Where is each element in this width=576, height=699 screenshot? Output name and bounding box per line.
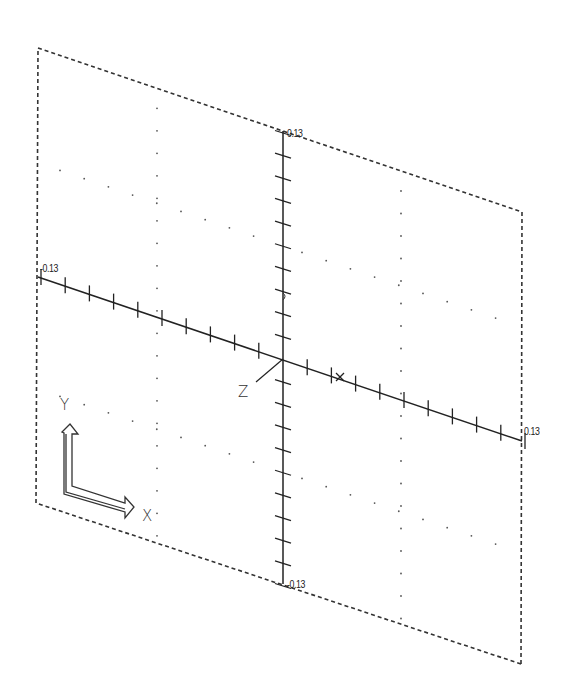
ucs-y-label: Y xyxy=(60,396,69,414)
axes xyxy=(38,131,522,584)
cad-viewport[interactable]: 0.13 -0.13 -0.13 0.13 Z Y X xyxy=(0,0,576,699)
axis-drawing xyxy=(0,0,576,699)
horizontal-axis xyxy=(38,277,522,441)
z-axis-leader xyxy=(256,359,283,382)
ucs-x-label: X xyxy=(142,507,152,525)
vertical-axis-max-label: 0.13 xyxy=(287,127,303,139)
viewport-frame xyxy=(36,48,522,664)
horizontal-axis-min-label: -0.13 xyxy=(40,262,58,274)
z-axis-label: Z xyxy=(238,383,248,401)
vertical-axis-min-label: -0.13 xyxy=(287,578,305,590)
horizontal-axis-max-label: 0.13 xyxy=(524,425,540,437)
ucs-icon xyxy=(62,424,134,518)
